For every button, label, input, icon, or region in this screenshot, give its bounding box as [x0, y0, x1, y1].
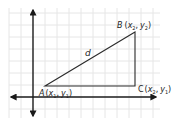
distance-diagram: d A(x1,y1) B(x2,y2) C(x2,y1): [0, 0, 185, 127]
point-c-label: C(x2,y1): [138, 85, 171, 95]
point-b-label: B(x2,y2): [117, 21, 151, 31]
distance-label-d: d: [85, 48, 91, 58]
point-a-label: A(x1,y1): [38, 89, 72, 99]
right-triangle: [45, 32, 135, 86]
